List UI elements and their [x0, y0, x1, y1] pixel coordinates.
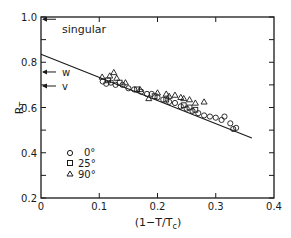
circle-marker-icon	[219, 117, 224, 122]
circle-marker-icon	[228, 121, 233, 126]
annotation-v-label: v	[62, 81, 68, 92]
circle-marker-icon	[178, 104, 183, 109]
circle-marker-icon	[196, 111, 201, 116]
triangle-marker-icon	[67, 171, 73, 176]
circle-marker-icon	[67, 150, 72, 155]
axis-tick-labels: 0.20.40.60.81.000.10.20.30.4	[21, 12, 282, 212]
triangle-marker-icon	[114, 75, 120, 80]
triangle-marker-icon	[192, 100, 198, 105]
x-tick-label: 0.1	[91, 201, 107, 212]
legend-item-25deg: 25°	[68, 158, 96, 169]
x-tick-label: 0.3	[208, 201, 224, 212]
circle-marker-icon	[207, 114, 212, 119]
circle-marker-icon	[190, 108, 195, 113]
annotation-singular-label: singular	[62, 23, 107, 36]
plot-frame	[41, 17, 274, 198]
data-points	[99, 69, 239, 131]
circle-marker-icon	[202, 113, 207, 118]
y-tick-label: 0.8	[21, 57, 37, 68]
arrow-head	[42, 69, 47, 74]
y-tick-label: 0.2	[21, 193, 37, 204]
legend-label: 25°	[78, 158, 96, 169]
annotation-singular: singular	[42, 17, 107, 36]
square-marker-icon	[68, 161, 73, 166]
x-axis-label: (1−T/Tc)	[135, 216, 181, 231]
circle-marker-icon	[222, 114, 227, 119]
scatter-chart: 0.20.40.60.81.000.10.20.30.4 singular w …	[0, 0, 291, 238]
legend-item-0deg: 0°	[67, 147, 95, 158]
circle-marker-icon	[172, 100, 177, 105]
y-axis-label: RT	[13, 102, 28, 115]
legend-label: 0°	[84, 147, 95, 158]
x-tick-label: 0	[38, 201, 44, 212]
circle-marker-icon	[155, 95, 160, 100]
circle-marker-icon	[161, 97, 166, 102]
legend: 0° 25° 90°	[67, 147, 96, 180]
triangle-marker-icon	[187, 97, 193, 102]
svg-text:RT: RT	[13, 102, 28, 115]
x-label-close: )	[177, 216, 181, 229]
annotation-w-label: w	[62, 67, 70, 78]
circle-marker-icon	[213, 115, 218, 120]
annotation-w: w	[42, 67, 70, 78]
y-tick-label: 0.4	[21, 148, 37, 159]
x-tick-label: 0.2	[150, 201, 166, 212]
arrow-left-icon	[42, 84, 56, 89]
annotation-v: v	[42, 81, 68, 92]
y-label-sub: T	[19, 102, 28, 108]
arrow-left-icon	[42, 69, 56, 74]
x-tick-label: 0.4	[266, 201, 282, 212]
triangle-marker-icon	[201, 99, 207, 104]
plot-border	[41, 17, 274, 198]
arrow-head	[42, 84, 47, 89]
triangle-marker-icon	[172, 92, 178, 97]
y-tick-label: 1.0	[21, 12, 37, 23]
axis-ticks	[41, 17, 274, 198]
triangle-marker-icon	[111, 69, 117, 74]
svg-text:(1−T/Tc): (1−T/Tc)	[135, 216, 181, 231]
x-label-main: (1−T/T	[135, 216, 173, 229]
circle-marker-icon	[184, 106, 189, 111]
legend-item-90deg: 90°	[67, 169, 96, 180]
triangle-marker-icon	[155, 90, 161, 95]
legend-label: 90°	[78, 169, 96, 180]
